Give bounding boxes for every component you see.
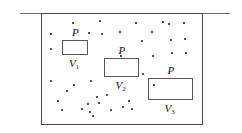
gas-molecule	[89, 111, 91, 113]
gas-molecule	[185, 52, 187, 54]
volume-label-v1: V1	[69, 58, 79, 69]
gas-molecule	[101, 33, 103, 35]
volume-box-v1	[62, 40, 88, 55]
gas-molecule	[184, 38, 186, 40]
gas-molecule	[168, 23, 170, 25]
gas-molecule	[119, 31, 121, 33]
gas-molecule	[170, 39, 172, 41]
gas-molecule	[50, 80, 52, 82]
gas-molecule	[171, 52, 173, 54]
volume-label-subscript-v2: 2	[122, 85, 126, 93]
gas-molecule	[122, 106, 124, 108]
pressure-label-v3: P	[168, 65, 175, 76]
gas-molecule	[135, 22, 137, 24]
gas-molecule	[72, 22, 74, 24]
volume-label-subscript-v1: 1	[76, 63, 80, 71]
gas-pressure-volume-diagram: PV1PV2PV3	[0, 0, 242, 133]
gas-molecule	[87, 103, 89, 105]
volume-box-v2	[104, 58, 139, 77]
gas-molecule	[99, 20, 101, 22]
gas-molecule	[57, 100, 59, 102]
gas-molecule	[128, 100, 130, 102]
pressure-label-v2: P	[119, 45, 126, 56]
gas-molecule	[90, 80, 92, 82]
gas-molecule	[142, 73, 144, 75]
volume-label-subscript-v3: 3	[171, 108, 175, 116]
volume-box-v3	[148, 78, 193, 100]
gas-molecule	[88, 32, 90, 34]
gas-molecule	[131, 108, 133, 110]
volume-label-v3: V3	[165, 103, 175, 114]
gas-molecule	[66, 90, 68, 92]
gas-molecule	[151, 31, 153, 33]
gas-molecule	[73, 84, 75, 86]
gas-molecule	[50, 48, 52, 50]
gas-molecule	[183, 22, 185, 24]
gas-molecule	[50, 33, 52, 35]
gas-molecule	[106, 94, 108, 96]
gas-molecule	[98, 102, 100, 104]
gas-molecule	[110, 109, 112, 111]
volume-label-v2: V2	[116, 80, 126, 91]
gas-molecule	[81, 108, 83, 110]
gas-molecule	[152, 55, 154, 57]
gas-molecule	[162, 21, 164, 23]
gas-molecule	[92, 115, 94, 117]
pressure-label-v1: P	[72, 27, 79, 38]
gas-molecule	[96, 96, 98, 98]
gas-molecule	[61, 109, 63, 111]
volume-label-text-v1: V	[69, 57, 76, 69]
gas-molecule	[141, 40, 143, 42]
